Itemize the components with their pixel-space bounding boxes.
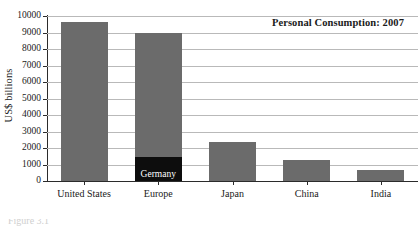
chart-figure: US$ billions 010002000300040005000600070… [0,0,418,227]
y-tick-mark [43,115,47,116]
y-tick-label: 6000 [22,77,41,87]
y-tick-mark [43,82,47,83]
x-axis-labels: United StatesEuropeJapanChinaIndia [47,188,418,204]
bar [283,160,330,181]
x-tick-mark [307,181,308,185]
x-tick-mark [158,181,159,185]
x-tick-label: United States [57,188,111,199]
bar [61,22,108,181]
bar [209,142,256,181]
y-tick-mark [43,49,47,50]
bar-segment-main [61,22,108,181]
bar: Germany [135,33,182,181]
bar [357,170,404,181]
y-tick-label: 3000 [22,127,41,137]
x-tick-mark [381,181,382,185]
x-tick-label: India [371,188,392,199]
y-tick-label: 0 [36,176,41,186]
bar-segment-germany: Germany [135,157,182,181]
y-axis-title-label: US$ billions [3,68,14,122]
bar-segment-main [357,170,404,181]
bar-segment-label: Germany [141,170,176,182]
y-tick-label: 2000 [22,143,41,153]
y-tick-label: 1000 [22,160,41,170]
y-tick-label: 10000 [17,11,41,21]
chart-title: Personal Consumption: 2007 [272,17,404,28]
y-axis-title: US$ billions [0,0,16,190]
y-tick-label: 4000 [22,110,41,120]
y-tick-mark [43,33,47,34]
x-tick-mark [84,181,85,185]
bar-segment-main [209,142,256,181]
y-tick-mark [43,66,47,67]
y-tick-label: 5000 [22,94,41,104]
y-tick-label: 7000 [22,61,41,70]
bar-segment-main [283,160,330,181]
plot-area: 0100020003000400050006000700080009000100… [47,16,418,181]
y-tick-mark [43,16,47,17]
figure-caption-text: Figure 3.1 [8,219,418,226]
y-tick-mark [43,165,47,166]
y-tick-label: 9000 [22,28,41,38]
x-axis-ticks [47,181,418,186]
y-tick-label: 8000 [22,44,41,54]
x-tick-label: China [295,188,319,199]
x-tick-mark [233,181,234,185]
y-tick-mark [43,148,47,149]
x-tick-label: Europe [144,188,173,199]
x-tick-label: Japan [221,188,244,199]
y-tick-mark [43,99,47,100]
figure-caption-cutoff: Figure 3.1 [0,219,418,227]
y-tick-mark [43,132,47,133]
